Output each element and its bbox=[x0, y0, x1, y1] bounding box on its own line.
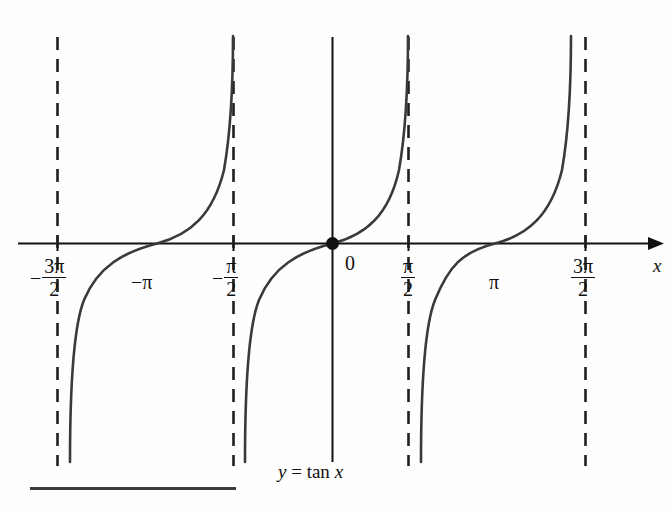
minus-sign: − bbox=[212, 268, 223, 288]
curve-label-neg-pi: −π bbox=[131, 272, 152, 292]
fraction-body: 3π 2 bbox=[42, 256, 66, 300]
fraction-denominator: 2 bbox=[47, 278, 61, 299]
x-axis-label: x bbox=[653, 256, 661, 275]
tick-label-three-pi-over-two: 3π 2 bbox=[571, 256, 595, 300]
fraction-neg-three-pi-over-two: − 3π 2 bbox=[30, 256, 66, 300]
tangent-branch-right bbox=[421, 36, 571, 462]
tangent-curve-group bbox=[70, 36, 571, 462]
tangent-branch-center bbox=[245, 36, 408, 462]
minus-sign: − bbox=[30, 268, 41, 288]
fraction-denominator: 2 bbox=[401, 278, 415, 299]
tangent-plot-canvas bbox=[0, 0, 672, 509]
fraction-neg-pi-over-two: − π 2 bbox=[212, 256, 238, 300]
fraction-body: π 2 bbox=[224, 256, 238, 300]
fraction-body: 3π 2 bbox=[571, 256, 595, 300]
figure-caption: y = tan x bbox=[278, 462, 343, 481]
tick-label-neg-three-pi-over-two: − 3π 2 bbox=[30, 256, 66, 300]
fraction-body: π 2 bbox=[401, 256, 415, 300]
fraction-denominator: 2 bbox=[576, 278, 590, 299]
fraction-numerator: 3π bbox=[571, 256, 595, 278]
x-axis-arrowhead bbox=[648, 237, 664, 250]
fraction-pi-over-two: π 2 bbox=[401, 256, 415, 300]
tick-label-pi-over-two: π 2 bbox=[401, 256, 415, 300]
caption-expression: tan bbox=[307, 461, 330, 482]
fraction-three-pi-over-two: 3π 2 bbox=[571, 256, 595, 300]
tick-label-neg-pi-over-two: − π 2 bbox=[212, 256, 238, 300]
tangent-function-figure: x 0 − 3π 2 − π 2 π 2 bbox=[0, 0, 672, 509]
caption-variable: x bbox=[335, 461, 343, 482]
bottom-divider-rule bbox=[30, 487, 236, 490]
fraction-numerator: 3π bbox=[42, 256, 66, 278]
fraction-numerator: π bbox=[401, 256, 415, 278]
x-axis bbox=[18, 237, 664, 250]
origin-label: 0 bbox=[345, 253, 355, 273]
asymptote-group bbox=[58, 37, 586, 466]
caption-equals: = bbox=[291, 461, 302, 482]
fraction-denominator: 2 bbox=[224, 278, 238, 299]
curve-label-pi: π bbox=[489, 272, 499, 292]
origin-point-marker bbox=[326, 237, 339, 250]
tangent-branch-left bbox=[70, 36, 233, 462]
fraction-numerator: π bbox=[224, 256, 238, 278]
